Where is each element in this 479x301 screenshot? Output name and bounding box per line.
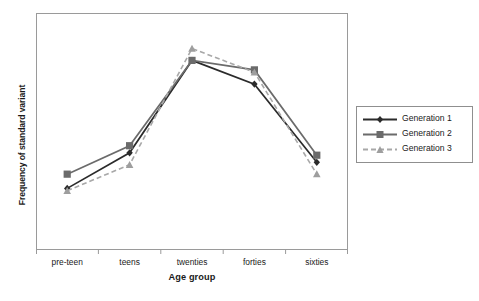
series-line xyxy=(67,60,317,174)
triangle-data-marker xyxy=(188,45,196,52)
square-data-marker xyxy=(64,171,71,178)
legend-item-generation-1[interactable]: Generation 1 xyxy=(362,111,468,126)
triangle-data-marker xyxy=(126,161,134,168)
legend-label-generation-2: Generation 2 xyxy=(398,127,452,140)
y-axis-title: Frequency of standard variant xyxy=(15,27,29,264)
square-data-marker xyxy=(313,152,320,159)
x-tick-label-twenties: twenties xyxy=(161,254,223,270)
x-axis-tick-labels: pre-teen teens twenties forties sixties xyxy=(36,254,348,270)
series-line xyxy=(67,60,317,188)
legend-label-generation-3: Generation 3 xyxy=(398,142,452,155)
square-marker-icon xyxy=(362,127,398,140)
diamond-marker-icon xyxy=(362,112,398,125)
x-tick-label-pre-teen: pre-teen xyxy=(36,254,98,270)
x-tick-label-sixties: sixties xyxy=(286,254,348,270)
square-data-marker xyxy=(126,142,133,149)
legend-label-generation-1: Generation 1 xyxy=(398,112,452,125)
triangle-data-marker xyxy=(313,170,321,177)
series-1 xyxy=(64,57,320,192)
series-line xyxy=(67,49,317,191)
square-data-marker xyxy=(188,57,195,64)
triangle-marker-icon xyxy=(362,142,398,155)
x-axis-title: Age group xyxy=(36,272,348,282)
legend-item-generation-2[interactable]: Generation 2 xyxy=(362,126,468,141)
x-tick-label-forties: forties xyxy=(223,254,285,270)
legend-item-generation-3[interactable]: Generation 3 xyxy=(362,141,468,156)
x-tick-label-teens: teens xyxy=(98,254,160,270)
line-chart-plot xyxy=(36,13,348,250)
chart-figure: Frequency of standard variant pre-teen t… xyxy=(0,0,479,301)
chart-legend: Generation 1 Generation 2 Generation 3 xyxy=(356,106,473,163)
series-layer xyxy=(63,45,320,194)
